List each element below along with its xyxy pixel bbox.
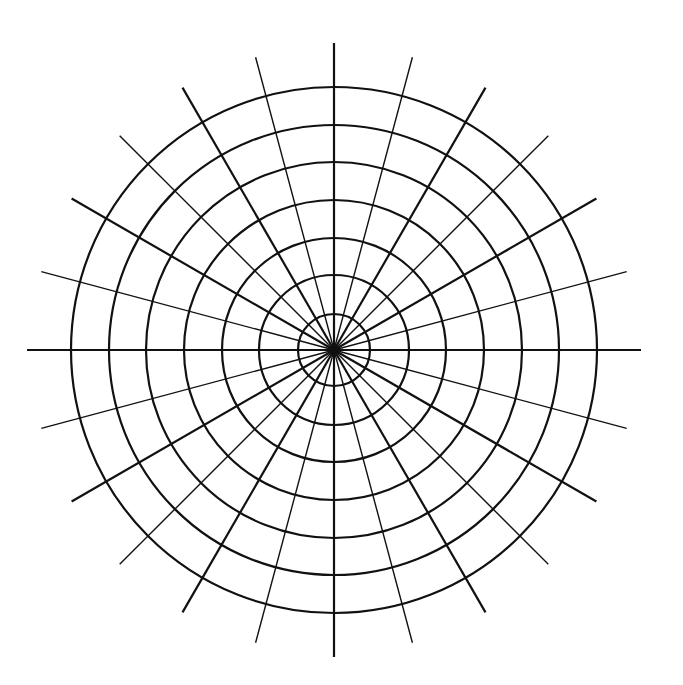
spoke-line (41, 272, 334, 350)
spoke-line (334, 350, 627, 428)
spoke-line (334, 350, 412, 643)
polar-grid-canvas (0, 0, 683, 685)
spoke-line (334, 57, 412, 350)
spoke-line (256, 350, 334, 643)
spoke-line (41, 350, 334, 428)
spoke-line (334, 272, 627, 350)
radial-spokes (27, 43, 641, 657)
spoke-line (256, 57, 334, 350)
polar-grid-diagram (0, 0, 683, 685)
